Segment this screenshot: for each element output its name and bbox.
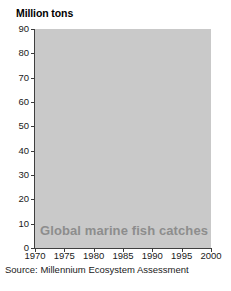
y-tick-label: 40 (0, 146, 29, 155)
y-tick-label: 30 (0, 170, 29, 179)
y-tick-mark (31, 126, 34, 127)
y-tick-mark (31, 29, 34, 30)
source-note: Source: Millennium Ecosystem Assessment (5, 264, 189, 275)
x-tick-label: 1985 (108, 251, 138, 261)
y-axis-line (34, 29, 35, 249)
y-tick-mark (31, 224, 34, 225)
x-tick-mark (35, 249, 36, 252)
plot-background (35, 29, 211, 248)
x-tick-label: 1980 (79, 251, 109, 261)
x-tick-mark (152, 249, 153, 252)
y-tick-label: 80 (0, 48, 29, 57)
y-tick-label: 10 (0, 219, 29, 228)
y-tick-label: 70 (0, 73, 29, 82)
y-tick-label: 20 (0, 194, 29, 203)
x-tick-label: 1970 (20, 251, 50, 261)
fish-catches-chart-figure: Million tons (0, 0, 231, 291)
x-tick-mark (182, 249, 183, 252)
y-tick-label: 90 (0, 24, 29, 33)
x-tick-mark (64, 249, 65, 252)
x-tick-label: 1990 (137, 251, 167, 261)
y-tick-mark (31, 199, 34, 200)
x-tick-label: 2000 (196, 251, 226, 261)
y-tick-mark (31, 175, 34, 176)
x-tick-label: 1975 (49, 251, 79, 261)
y-axis-title: Million tons (16, 7, 73, 19)
y-tick-mark (31, 102, 34, 103)
y-tick-mark (31, 248, 34, 249)
y-tick-label: 50 (0, 121, 29, 130)
x-tick-mark (123, 249, 124, 252)
y-tick-mark (31, 78, 34, 79)
plot-area (35, 29, 211, 248)
x-tick-mark (211, 249, 212, 252)
y-tick-label: 60 (0, 97, 29, 106)
chart-caption: Global marine fish catches (40, 223, 208, 238)
y-tick-mark (31, 151, 34, 152)
x-tick-mark (94, 249, 95, 252)
y-tick-mark (31, 53, 34, 54)
x-tick-label: 1995 (167, 251, 197, 261)
